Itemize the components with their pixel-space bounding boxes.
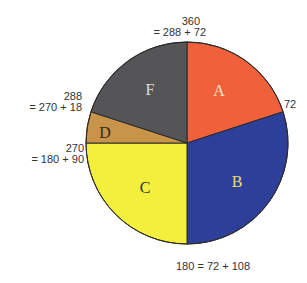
- annotation-270-line2: = 180 + 90: [10, 154, 84, 165]
- annotation-270: 270 = 180 + 90: [10, 143, 84, 165]
- annotation-72-text: 72: [284, 98, 296, 110]
- slice-label-b: B: [232, 173, 243, 190]
- slice-label-f: F: [146, 81, 155, 98]
- slice-label-a: A: [213, 82, 225, 99]
- annotation-360: 360 = 288 + 72: [130, 16, 206, 38]
- slice-c: [86, 143, 187, 244]
- pie-chart: ABCDF: [0, 0, 307, 283]
- annotation-360-line2: = 288 + 72: [130, 27, 206, 38]
- annotation-72: 72: [284, 99, 296, 110]
- annotation-288-line2: = 270 + 18: [10, 102, 82, 113]
- annotation-180: 180 = 72 + 108: [176, 261, 250, 272]
- slice-label-d: D: [99, 124, 111, 141]
- annotation-288: 288 = 270 + 18: [10, 91, 82, 113]
- annotation-180-text: 180 = 72 + 108: [176, 260, 250, 272]
- slice-label-c: C: [140, 179, 151, 196]
